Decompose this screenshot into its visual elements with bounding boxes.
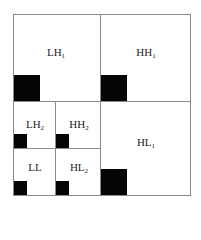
label-hl1: HL1 [137, 137, 155, 148]
block-hl1 [101, 169, 127, 195]
block-hh2 [56, 134, 69, 148]
label-ll: LL [28, 162, 41, 173]
label-lh2: LH2 [26, 119, 44, 130]
label-lh1: LH1 [47, 47, 65, 58]
divider-horizontal-inner [13, 148, 101, 149]
block-lh2 [14, 134, 27, 148]
divider-horizontal-main [13, 101, 191, 102]
block-hh1 [101, 75, 127, 101]
label-hh1: HH1 [136, 47, 155, 58]
label-hh2: HH2 [69, 119, 88, 130]
block-ll [14, 181, 27, 195]
block-lh1 [14, 75, 40, 101]
label-hl2: HL2 [70, 162, 88, 173]
block-hl2 [56, 181, 69, 195]
